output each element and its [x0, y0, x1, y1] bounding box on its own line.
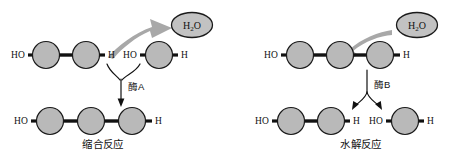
reactant-chain-left-b: HO H	[123, 42, 188, 69]
terminal-label-ho: HO	[369, 116, 383, 126]
water-molecule-right: H2O	[397, 13, 438, 38]
enzyme-label-b: 酶B	[374, 79, 390, 90]
monomer-circle	[78, 108, 105, 135]
terminal-label-h: H	[403, 50, 410, 60]
terminal-label-h: H	[108, 50, 115, 60]
monomer-circle	[119, 108, 146, 135]
monomer-circle	[367, 42, 394, 69]
monomer-circle	[318, 108, 345, 135]
diagram-canvas: H2O HO H HO H	[0, 0, 453, 157]
terminal-label-ho: HO	[14, 116, 28, 126]
monomer-circle	[146, 42, 173, 69]
reactant-chain-right: HO H	[264, 42, 410, 69]
caption-condensation: 缩合反应	[82, 138, 124, 150]
hydrolysis-reaction-arrow	[352, 70, 382, 110]
monomer-circle	[37, 108, 64, 135]
enzyme-label-a: 酶A	[128, 81, 145, 92]
arrowhead-icon	[375, 101, 382, 110]
terminal-label-ho: HO	[255, 116, 269, 126]
left-panel-condensation: H2O HO H HO H	[11, 13, 213, 151]
terminal-label-h: H	[155, 116, 162, 126]
monomer-circle	[278, 108, 305, 135]
water-molecule-left: H2O	[172, 13, 213, 38]
monomer-circle	[287, 42, 314, 69]
terminal-label-h: H	[353, 116, 360, 126]
terminal-label-h: H	[181, 50, 188, 60]
monomer-circle	[33, 42, 60, 69]
arrowhead-icon	[352, 101, 359, 110]
terminal-label-h: H	[427, 116, 434, 126]
arrowhead-icon	[118, 99, 125, 108]
reactant-chain-left-a: HO H	[11, 42, 115, 69]
reaction-diagram: H2O HO H HO H	[0, 0, 453, 157]
monomer-circle	[73, 42, 100, 69]
product-chain-right-b: HO H	[369, 108, 434, 135]
monomer-circle	[327, 42, 354, 69]
monomer-circle	[392, 108, 419, 135]
right-panel-hydrolysis: H2O HO H 酶B	[255, 13, 438, 151]
terminal-label-ho: HO	[264, 50, 278, 60]
terminal-label-ho: HO	[123, 50, 137, 60]
terminal-label-ho: HO	[11, 50, 25, 60]
product-chain-left: HO H	[14, 108, 162, 135]
caption-hydrolysis: 水解反应	[340, 138, 382, 150]
product-chain-right-a: HO H	[255, 108, 360, 135]
